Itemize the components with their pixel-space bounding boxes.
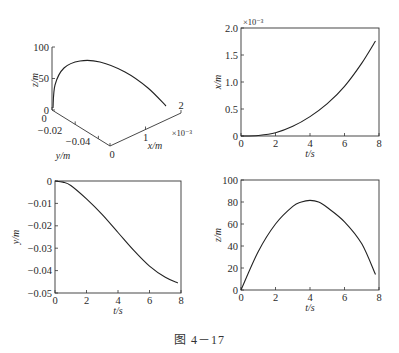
y-tick-label: −0.04 xyxy=(66,136,91,147)
series-line xyxy=(55,181,178,283)
y-multiplier: ×10⁻³ xyxy=(243,17,264,27)
y-tick-label: −0.03 xyxy=(28,243,52,254)
plot-frame xyxy=(241,180,379,290)
y-tick-label: 0 xyxy=(233,285,238,296)
x-tick-label: 0 xyxy=(52,295,57,306)
x-tick-label: 0 xyxy=(238,138,243,149)
chart-trajectory-3d: 050100z/m0−0.02−0.04y/m012×10⁻³x/m xyxy=(29,42,193,162)
plot-frame xyxy=(241,28,379,136)
series-line xyxy=(241,200,376,290)
y-tick-label: 1.0 xyxy=(225,77,238,88)
x-tick-label: 2 xyxy=(273,292,278,303)
y-tick-label: 0 xyxy=(47,176,52,187)
x-tick-label: 2 xyxy=(178,100,183,111)
x-tick-label: 6 xyxy=(342,138,347,149)
y-axis-label: y/m xyxy=(55,150,70,161)
trajectory-line xyxy=(53,60,166,108)
x-axis-label: t/s xyxy=(305,302,315,313)
x-axis-label: x/m xyxy=(147,140,162,151)
series-line xyxy=(241,41,376,136)
x-axis-label: t/s xyxy=(305,148,315,159)
y-tick-label: −0.02 xyxy=(38,125,62,136)
y-tick-label: 80 xyxy=(228,197,239,208)
chart-y-vs-t: 024680−0.01−0.02−0.03−0.04−0.05t/sy/m xyxy=(10,176,184,317)
y-tick-label: 0.5 xyxy=(225,104,238,115)
y-tick-label: 60 xyxy=(228,219,239,230)
x-tick-label: 2 xyxy=(273,138,278,149)
y-tick-label: −0.05 xyxy=(28,288,52,299)
x-axis-label: t/s xyxy=(113,305,123,316)
y-tick-label: 2.0 xyxy=(225,23,238,34)
y-tick-label: −0.02 xyxy=(28,220,52,231)
y-tick-label: 100 xyxy=(222,175,238,186)
chart-z-vs-t: 02468020406080100t/sz/m xyxy=(212,175,382,314)
x-tick-label: 8 xyxy=(376,292,381,303)
y-axis-label: y/m xyxy=(10,230,21,245)
x-tick-label: 8 xyxy=(376,138,381,149)
x-tick-label: 8 xyxy=(178,295,183,306)
figure-canvas: 050100z/m0−0.02−0.04y/m012×10⁻³x/m024680… xyxy=(0,0,399,353)
y-axis-label: z/m xyxy=(212,228,223,243)
y-tick-label: −0.04 xyxy=(28,265,53,276)
chart-x-vs-t: 0246800.51.01.52.0t/sx/m×10⁻³ xyxy=(212,17,382,159)
z-tick-label: 50 xyxy=(39,73,50,84)
z-tick-label: 100 xyxy=(33,42,49,53)
x-tick-label: 6 xyxy=(147,295,152,306)
y-tick-label: 1.5 xyxy=(225,50,238,61)
y-tick-label: 0 xyxy=(41,113,46,124)
y-axis-label: x/m xyxy=(212,75,223,90)
x-tick-label: 0 xyxy=(109,149,114,160)
plot-frame xyxy=(55,181,181,293)
x-multiplier: ×10⁻³ xyxy=(172,128,193,138)
y-tick-label: 0 xyxy=(233,131,238,142)
figure-caption: 图 4－17 xyxy=(0,330,399,348)
z-axis-label: z/m xyxy=(29,73,40,88)
x-tick-label: 0 xyxy=(238,292,243,303)
x-tick-label: 6 xyxy=(342,292,347,303)
y-tick-label: 40 xyxy=(228,241,239,252)
x-tick-label: 2 xyxy=(84,295,89,306)
y-tick-label: 20 xyxy=(228,263,239,274)
y-tick-label: −0.01 xyxy=(28,198,52,209)
